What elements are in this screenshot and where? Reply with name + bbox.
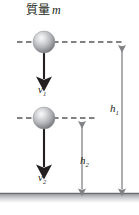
height-1-label: h1 [110, 103, 119, 117]
mass-label-symbol: m [50, 3, 61, 17]
height-1-subscript: 1 [116, 109, 119, 116]
mass-label: 質量m [26, 4, 61, 16]
velocity-1-label: v1 [38, 84, 46, 98]
height-2-subscript: 2 [86, 161, 89, 168]
height-2-label: h2 [80, 155, 89, 169]
mass-sphere-lower [33, 107, 55, 129]
velocity-2-label: v2 [38, 172, 46, 186]
ground-surface [0, 193, 139, 203]
mass-sphere-upper [33, 31, 55, 53]
velocity-2-subscript: 2 [43, 178, 46, 185]
physics-free-fall-diagram: 質量m v1 v2 h1 h2 [0, 0, 139, 215]
mass-label-text: 質量 [26, 3, 50, 17]
velocity-1-subscript: 1 [43, 90, 46, 97]
